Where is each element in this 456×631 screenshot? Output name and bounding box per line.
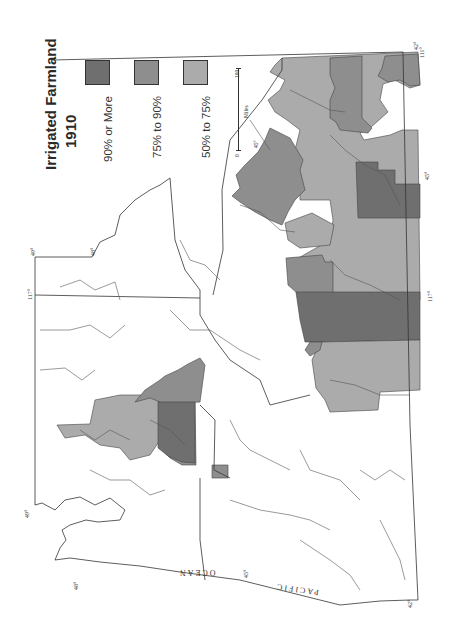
- degree-label-42-bottom: 42°: [407, 600, 413, 608]
- degree-label-111: 111°: [419, 47, 425, 58]
- region-50-75-south-oregon: [312, 340, 420, 412]
- ocean-label: OCEAN: [178, 568, 216, 577]
- scale-tick-start: [236, 150, 241, 151]
- degree-label-48-bottom: 48°: [73, 582, 79, 590]
- legend: Irrigated Farmland 1910 90% or More 75% …: [0, 0, 230, 175]
- region-50-75-yakima: [57, 395, 160, 460]
- legend-swatch-50-75: [183, 60, 208, 85]
- legend-label-90-plus: 90% or More: [102, 96, 114, 162]
- legend-label-75-90: 75% to 90%: [151, 96, 163, 158]
- region-90-plus-malheur-south: [296, 292, 420, 342]
- degree-label-45-right: 45°: [424, 172, 430, 180]
- legend-swatch-90-plus: [85, 60, 110, 85]
- degree-label-49-top: 49°: [30, 248, 36, 256]
- degree-label-48-top: 48°: [90, 248, 96, 256]
- degree-label-117-top: 117°: [27, 289, 33, 300]
- legend-title: Irrigated Farmland: [42, 38, 59, 170]
- scale-unit-label: Miles: [243, 105, 249, 118]
- scale-latitude-marker: 45°: [253, 140, 259, 148]
- scale-start-label: 0: [234, 154, 240, 157]
- legend-year: 1910: [62, 115, 79, 148]
- region-90-plus-yakima: [158, 402, 195, 463]
- degree-label-45-bottom: 45°: [243, 570, 249, 578]
- legend-label-50-75: 50% to 75%: [200, 96, 212, 158]
- scale-bar: [238, 68, 239, 150]
- degree-label-117-right: 117°: [427, 291, 433, 302]
- degree-label-49-bottom: 49°: [24, 510, 30, 518]
- region-75-90-yakima-lower: [135, 358, 205, 404]
- legend-swatch-75-90: [134, 60, 159, 85]
- scale-end-label: 100: [234, 70, 240, 78]
